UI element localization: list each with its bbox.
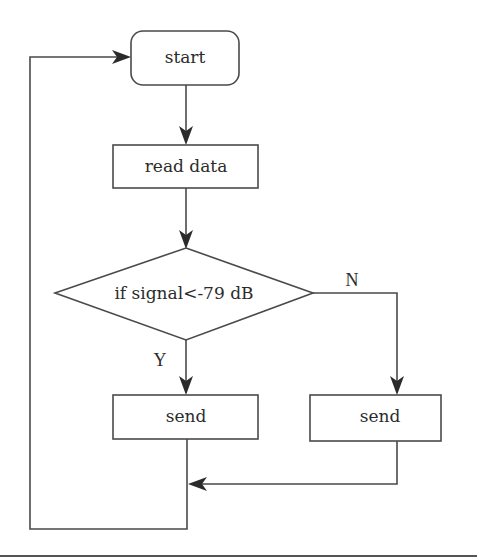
edge-decision-yes: Y [154,340,194,395]
start-node: start [131,31,239,85]
yes-branch-label: Y [154,350,167,370]
send-yes-node: send [113,395,258,439]
read-data-node-label: read data [145,156,228,176]
edge-send-no-to-merge [188,441,397,491]
send-yes-node-label: send [166,406,207,426]
no-branch-label: N [346,270,359,290]
send-no-node: send [310,395,441,441]
send-no-node-label: send [360,406,401,426]
edge-read-data-to-decision [179,188,193,249]
flowchart-diagram: start read data if signal<-79 dB Y N sen… [0,0,477,558]
read-data-node: read data [113,145,258,188]
edge-decision-no: N [313,270,404,395]
start-node-label: start [165,47,206,67]
decision-node: if signal<-79 dB [55,248,313,340]
edge-start-to-read-data [179,85,193,145]
decision-node-label: if signal<-79 dB [114,283,253,303]
